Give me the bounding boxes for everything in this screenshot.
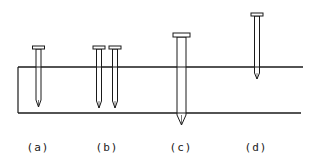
nail-shank <box>113 49 118 108</box>
nail-a <box>33 46 45 107</box>
nail-head <box>33 46 45 49</box>
nail-head <box>173 33 190 37</box>
panel-label-d: (d) <box>245 141 268 154</box>
nail-head <box>93 46 105 49</box>
board <box>18 67 303 113</box>
panel-label-a: (a) <box>27 141 50 154</box>
nail-b <box>109 46 121 108</box>
nail-d <box>251 13 263 79</box>
nails-group <box>33 13 264 125</box>
panel-label-b: (b) <box>96 141 119 154</box>
nail-shank <box>255 16 260 79</box>
nail-shank <box>177 37 186 125</box>
nail-head <box>251 13 263 16</box>
nail-shank <box>36 49 41 107</box>
nail-head <box>109 46 121 49</box>
panel-label-c: (c) <box>170 141 193 154</box>
nail-c <box>173 33 190 125</box>
nail-shank <box>97 49 102 108</box>
nail-b <box>93 46 105 108</box>
